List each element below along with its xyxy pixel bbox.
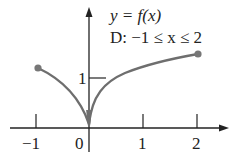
domain-label: D: −1 ≤ x ≤ 2 (110, 28, 202, 47)
y-axis-arrow-icon (86, 7, 93, 17)
x-tick-label-1: 1 (138, 134, 147, 153)
y-tick-label-1: 1 (78, 69, 87, 88)
function-curve (38, 54, 198, 124)
function-label: y = f(x) (108, 6, 161, 25)
function-graph: −1 0 1 2 1 y = f(x) D: −1 ≤ x ≤ 2 (0, 0, 234, 157)
x-axis-arrow-icon (219, 125, 229, 132)
x-tick-label-2: 2 (192, 134, 201, 153)
right-endpoint (194, 50, 201, 57)
x-tick-label-neg1: −1 (22, 134, 40, 153)
x-tick-label-0: 0 (75, 134, 84, 153)
left-endpoint (34, 64, 41, 71)
